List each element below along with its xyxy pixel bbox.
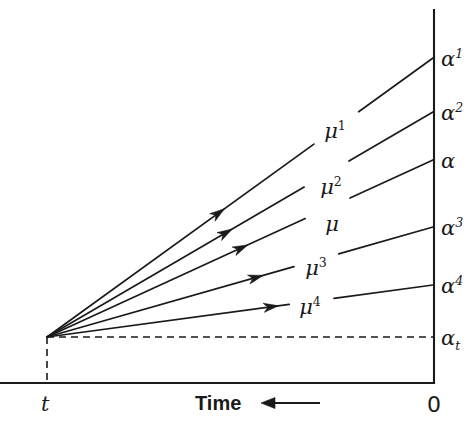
mu-exponent: 2	[334, 174, 342, 189]
alpha-base: α	[441, 216, 455, 240]
alpha-base: α	[441, 47, 455, 71]
mu-base: μ	[325, 212, 339, 236]
mu-base: μ	[320, 175, 334, 199]
mu-label-2: μ2	[320, 174, 342, 199]
ray-segment-upper	[349, 112, 433, 161]
rays-group: μ1μ2μμ3μ4	[47, 58, 433, 337]
alpha-base: α	[441, 101, 455, 125]
ray-segment-upper	[334, 285, 433, 298]
alpha-end-label-1: α1	[441, 46, 463, 71]
zero-tick-label: 0	[427, 392, 441, 417]
t-tick-label: t	[41, 392, 50, 416]
ray-segment-upper	[359, 58, 433, 112]
mu-label-4: μ3	[305, 255, 327, 280]
mu-exponent: 1	[338, 118, 346, 133]
mu-exponent: 4	[313, 294, 321, 309]
alpha-exponent: 4	[454, 273, 463, 288]
mu-exponent: 3	[319, 255, 327, 270]
alpha-exponent: 1	[455, 46, 463, 61]
ray-2: μ2	[47, 112, 433, 337]
alpha-t-label: αt	[441, 326, 461, 353]
alpha-t-subscript: t	[455, 338, 461, 353]
ray-fan-diagram: μ1μ2μμ3μ4 α1α2αα3α4 αt t 0 Time	[0, 0, 471, 425]
alpha-end-label-5: α4	[441, 273, 463, 298]
mu-base: μ	[305, 256, 319, 280]
alpha-end-labels-group: α1α2αα3α4	[441, 46, 463, 298]
mu-label-1: μ1	[324, 118, 346, 143]
figure-container: μ1μ2μμ3μ4 α1α2αα3α4 αt t 0 Time	[0, 0, 471, 425]
mu-label-3: μ	[325, 212, 339, 236]
mu-base: μ	[299, 295, 313, 319]
alpha-exponent: 3	[455, 215, 463, 230]
alpha-base: α	[441, 149, 455, 173]
ray-1: μ1	[47, 58, 433, 337]
time-direction-arrow-icon	[261, 398, 320, 409]
baseline-group	[47, 337, 433, 383]
ray-segment-lower	[47, 187, 304, 337]
alpha-base: α	[441, 274, 455, 298]
alpha-end-label-3: α	[441, 149, 455, 173]
alpha-end-label-2: α2	[441, 100, 463, 125]
ray-arrowhead-icon	[217, 229, 232, 241]
mu-label-5: μ4	[299, 294, 321, 319]
ray-segment-upper	[339, 227, 433, 254]
alpha-exponent: 2	[454, 100, 463, 115]
time-axis-title: Time	[195, 392, 241, 414]
mu-base: μ	[324, 119, 338, 143]
ray-4: μ3	[47, 227, 433, 337]
alpha-end-label-4: α3	[441, 215, 463, 240]
ray-arrowhead-icon	[210, 209, 225, 222]
alpha-t-base: α	[441, 326, 455, 350]
ray-segment-upper	[350, 160, 433, 198]
